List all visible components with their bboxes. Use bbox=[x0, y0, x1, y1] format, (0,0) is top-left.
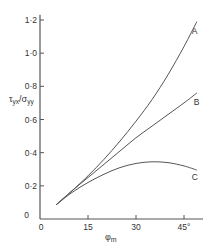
curve-b bbox=[56, 93, 197, 205]
chart: 00·20·40·60·81·01·2 0153045° ABC τyx/σyy… bbox=[0, 0, 215, 249]
y-tick-label: 0·2 bbox=[25, 181, 38, 191]
y-tick-label: 0·6 bbox=[25, 115, 38, 125]
curve-label-c: C bbox=[192, 172, 198, 182]
plot-curves: ABC bbox=[56, 22, 200, 205]
y-tick-label: 0 bbox=[24, 210, 29, 220]
x-axis: 0153045° bbox=[39, 215, 203, 232]
curve-a bbox=[56, 22, 197, 205]
curve-label-a: A bbox=[192, 26, 198, 36]
y-axis-title: τyx/σyy bbox=[9, 94, 34, 106]
y-tick-label: 1·2 bbox=[25, 15, 38, 25]
curve-label-b: B bbox=[194, 97, 200, 107]
y-tick-label: 0·4 bbox=[25, 148, 38, 158]
x-axis-title: φm bbox=[105, 232, 117, 243]
y-axis: 00·20·40·60·81·01·2 bbox=[24, 15, 44, 220]
y-tick-label: 1·0 bbox=[25, 48, 38, 58]
x-tick-label: 15 bbox=[83, 222, 93, 232]
curve-c bbox=[56, 162, 197, 205]
x-tick-label: 0 bbox=[39, 222, 44, 232]
y-tick-label: 0·8 bbox=[25, 81, 38, 91]
x-tick-label: 45° bbox=[178, 222, 191, 232]
x-tick-label: 30 bbox=[131, 222, 141, 232]
